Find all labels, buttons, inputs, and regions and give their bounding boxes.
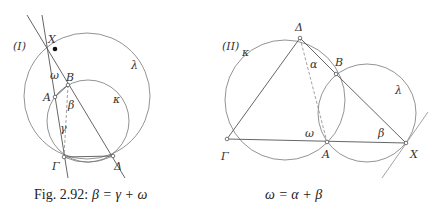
point-a <box>325 140 329 144</box>
segment-gamma-delta <box>227 38 300 139</box>
label-a: A <box>42 91 51 104</box>
label-delta: Δ <box>294 21 303 34</box>
figure-2-label: (II) <box>222 40 239 53</box>
label-b: B <box>334 56 343 69</box>
point-b <box>334 72 338 76</box>
point-gamma <box>62 155 66 159</box>
caption-fig-label: Fig. 2.92: <box>34 187 88 202</box>
figure-canvas: (I) X ω B A β γ Γ Δ λ κ (II) Δ α B κ λ ω… <box>0 0 440 214</box>
label-kappa: κ <box>241 46 250 59</box>
caption: Fig. 2.92: β = γ + ω ω = α + β <box>34 187 322 202</box>
label-lambda: λ <box>394 84 402 97</box>
label-beta: β <box>377 127 384 140</box>
segment-delta-b <box>300 38 336 74</box>
label-x: X <box>47 33 57 46</box>
point-delta <box>111 154 115 158</box>
label-omega: ω <box>50 69 59 82</box>
point-gamma <box>225 137 229 141</box>
label-gamma-angle: γ <box>60 122 67 135</box>
caption-equation-2: ω = α + β <box>265 187 322 202</box>
figure-1-label: (I) <box>13 40 26 53</box>
label-kappa: κ <box>112 93 121 106</box>
circle-lambda <box>318 64 416 162</box>
label-x: X <box>409 148 419 161</box>
label-b: B <box>65 71 74 84</box>
label-gamma-point: Γ <box>51 160 60 173</box>
caption-equation-1: β = γ + ω <box>91 187 147 202</box>
label-gamma-point: Γ <box>220 150 229 163</box>
line-x-b-delta <box>27 15 125 178</box>
label-omega: ω <box>305 127 314 140</box>
point-a <box>53 95 57 99</box>
figure-1: (I) X ω B A β γ Γ Δ λ κ <box>13 15 150 178</box>
figure-2: (II) Δ α B κ λ ω β A Γ X <box>220 21 428 178</box>
segment-gamma-delta <box>64 156 113 157</box>
segment-a-b <box>55 85 68 97</box>
point-x <box>404 141 408 145</box>
label-lambda: λ <box>130 59 138 72</box>
segment-b-gamma <box>64 85 68 157</box>
label-alpha: α <box>310 58 318 71</box>
point-x <box>53 47 58 52</box>
label-beta: β <box>67 99 74 112</box>
tangent-at-x <box>382 112 428 178</box>
label-a: A <box>321 148 330 161</box>
label-delta: Δ <box>113 160 122 173</box>
point-delta <box>298 36 302 40</box>
